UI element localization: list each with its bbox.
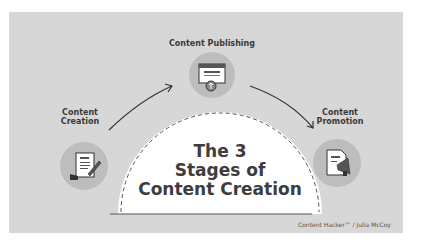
stage-label-creation: Content Creation: [55, 108, 105, 126]
stage-label-line: Content: [55, 108, 105, 117]
stage-label-line: Content: [310, 108, 370, 117]
stage-label-publishing: Content Publishing: [160, 39, 264, 48]
webpage-upload-icon: [189, 52, 235, 98]
title-line: Stages of: [130, 161, 310, 180]
stage-label-line: Creation: [55, 117, 105, 126]
stage-label-line: Content Publishing: [169, 39, 255, 48]
credit-text: Content Hacker™ / Julia McCoy: [298, 221, 391, 228]
diagram-title: The 3 Stages of Content Creation: [130, 142, 310, 199]
stage-label-line: Promotion: [310, 117, 370, 126]
title-line: Content Creation: [110, 180, 330, 199]
title-line: The 3: [130, 142, 310, 161]
stage-label-promotion: Content Promotion: [310, 108, 370, 126]
document-pen-icon: [60, 142, 108, 190]
arrow-creation-to-publishing: [109, 84, 172, 130]
